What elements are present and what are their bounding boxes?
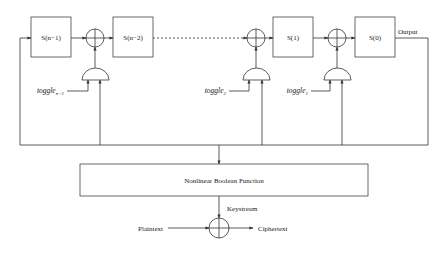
xor-icon <box>328 29 346 47</box>
register-label: S(n−1) <box>41 34 61 42</box>
nonlinear-boolean-function-box: Nonlinear Boolean Function <box>80 164 368 196</box>
register-s-n-1: S(n−1) <box>31 17 71 57</box>
toggle-input-line <box>67 80 88 91</box>
register-s-1: S(1) <box>273 17 313 57</box>
stream-cipher-diagram: S(n−1) S(n−2) S(1) S(0) Output <box>0 0 446 254</box>
toggle-2-label: toggle2 <box>205 86 227 96</box>
keystream-label: Keystream <box>227 205 258 213</box>
toggle-input-line <box>229 80 249 91</box>
toggle-n-1-label: togglen−1 <box>37 86 64 96</box>
and-gate-icon <box>324 47 351 80</box>
nonlinear-function-label: Nonlinear Boolean Function <box>184 177 264 185</box>
register-s-0: S(0) <box>355 17 395 57</box>
toggle-input-line <box>311 80 330 91</box>
register-label: S(n−2) <box>123 34 143 42</box>
register-s-n-2: S(n−2) <box>113 17 153 57</box>
plaintext-label: Plaintext <box>138 225 163 233</box>
toggle-1-label: toggle1 <box>287 86 308 96</box>
output-line <box>395 38 428 145</box>
xor-icon <box>247 29 265 47</box>
and-gate-icon <box>243 47 270 80</box>
feedback-line <box>20 38 31 145</box>
and-gate-icon <box>82 47 109 80</box>
ciphertext-label: Ciphertext <box>258 225 288 233</box>
xor-icon <box>209 218 229 238</box>
xor-icon <box>86 29 104 47</box>
register-label: S(1) <box>287 34 300 42</box>
register-label: S(0) <box>369 34 382 42</box>
output-label: Output <box>398 28 418 36</box>
